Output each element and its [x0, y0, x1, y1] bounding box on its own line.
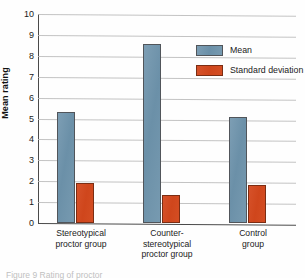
y-tick-label: 4	[12, 135, 34, 144]
y-tick-label: 9	[12, 30, 34, 39]
legend-swatch-standard-deviation	[196, 65, 223, 76]
x-axis-category-labels: Stereotypicalproctor groupCounter-stereo…	[38, 228, 296, 272]
x-category-label: Stereotypicalproctor group	[38, 228, 124, 249]
y-tick-label: 6	[12, 93, 34, 102]
x-category-label-line: Control	[210, 228, 296, 239]
y-tick-label: 1	[12, 198, 34, 207]
legend-label: Mean	[230, 45, 252, 55]
x-category-label: Counter-stereotypicalproctor group	[124, 228, 210, 260]
x-category-label-line: stereotypical	[124, 239, 210, 250]
y-axis-tick-labels: 109876543210	[6, 14, 34, 223]
legend-swatch-mean	[196, 45, 223, 56]
y-tick-label: 0	[12, 219, 34, 228]
x-category-label: Controlgroup	[210, 228, 296, 249]
y-tick-label: 2	[12, 177, 34, 186]
bar-mean[interactable]	[57, 112, 75, 223]
bar-standard-deviation[interactable]	[248, 185, 266, 223]
y-axis-title: Mean rating	[0, 67, 10, 119]
x-category-label-line: proctor group	[38, 239, 124, 250]
chart-legend: MeanStandard deviation	[196, 44, 300, 84]
bar-standard-deviation[interactable]	[76, 183, 94, 223]
legend-label: Standard deviation	[230, 65, 303, 75]
bar-mean[interactable]	[229, 117, 247, 223]
x-category-label-line: group	[210, 239, 296, 250]
legend-item[interactable]: Mean	[196, 44, 300, 56]
y-tick-label: 5	[12, 114, 34, 123]
y-tick-label: 7	[12, 72, 34, 81]
x-axis-baseline	[38, 223, 296, 226]
y-tick-label: 8	[12, 51, 34, 60]
x-category-label-line: proctor group	[124, 249, 210, 260]
y-tick-label: 3	[12, 156, 34, 165]
y-tick-label: 10	[12, 10, 34, 19]
bar-mean[interactable]	[143, 44, 161, 223]
bar-standard-deviation[interactable]	[162, 195, 180, 223]
x-category-label-line: Counter-	[124, 228, 210, 239]
figure-caption: Figure 9 Rating of proctor	[6, 270, 102, 280]
legend-item[interactable]: Standard deviation	[196, 64, 300, 76]
x-category-label-line: Stereotypical	[38, 228, 124, 239]
